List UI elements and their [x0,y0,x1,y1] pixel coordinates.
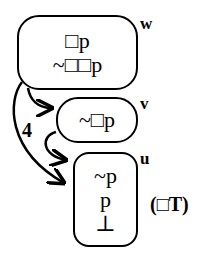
world-label-v: v [140,94,149,114]
world-w-box: □p ~□□p [17,15,138,90]
formula: p [100,188,111,212]
world-label-u: u [140,149,149,169]
formula: ⊥ [95,212,116,236]
world-u-box: ~p p ⊥ [73,152,138,247]
arrow-w-to-v [28,88,52,108]
edge-label-4: 4 [22,119,32,142]
world-label-w: w [140,14,152,34]
world-v-box: ~□p [56,97,138,143]
formula: □p [65,29,89,53]
formula: ~□p [79,108,115,132]
formula: ~□□p [53,53,102,77]
formula: ~p [94,164,117,188]
rule-note: (□T) [150,193,189,216]
